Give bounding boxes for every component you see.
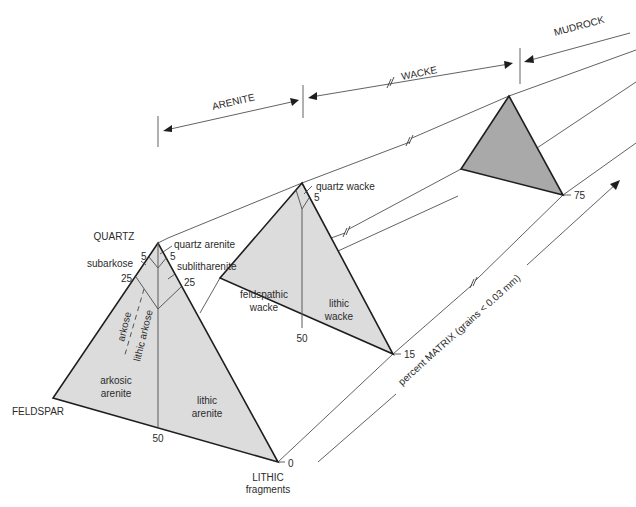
lithic-wacke-label-2: wacke xyxy=(324,311,354,322)
lithic-vertex-label-1: LITHIC xyxy=(252,472,284,483)
matrix-value-15: 15 xyxy=(404,349,416,360)
arenite-left-arrowhead xyxy=(163,125,172,132)
quartz-arenite-label: quartz arenite xyxy=(174,239,236,250)
sublitharenite-label: sublitharenite xyxy=(177,261,237,272)
arenite-tick-5-right: 5 xyxy=(170,251,176,262)
wacke-left-arrowhead xyxy=(308,92,317,100)
arenite-tick-50: 50 xyxy=(152,433,164,444)
arkosic-arenite-label-2: arenite xyxy=(101,388,132,399)
matrix-value-0: 0 xyxy=(288,458,294,469)
lithic-vertex-label-2: fragments xyxy=(246,484,290,495)
mudrock-range-label: MUDROCK xyxy=(553,14,606,38)
arkosic-arenite-label-1: arkosic xyxy=(100,375,132,386)
right-edge-connector xyxy=(200,278,220,313)
arenite-tick-25-right: 25 xyxy=(184,277,196,288)
quartz-vertex-label: QUARTZ xyxy=(94,231,135,242)
apex-tail xyxy=(158,238,168,243)
apex-line-4 xyxy=(509,50,636,96)
arenite-tick-25-left: 25 xyxy=(121,273,133,284)
wacke-tick-5: 5 xyxy=(314,192,320,203)
feldspar-vertex-label: FELDSPAR xyxy=(12,406,64,417)
matrix-axis-line-upper xyxy=(527,184,616,265)
arenite-right-arrowhead xyxy=(290,98,299,106)
feldspathic-wacke-label-2: wacke xyxy=(249,302,279,313)
quartz-wacke-label: quartz wacke xyxy=(316,181,375,192)
arenite-range-label: ARENITE xyxy=(211,91,256,112)
feldspathic-wacke-label-1: feldspathic xyxy=(240,289,288,300)
right-edge-line-3 xyxy=(537,82,636,148)
lithic-line-1 xyxy=(278,354,393,462)
subarkose-label: subarkose xyxy=(87,258,134,269)
lithic-line-2 xyxy=(393,285,472,354)
matrix-value-75: 75 xyxy=(574,190,586,201)
wacke-tick-50: 50 xyxy=(296,333,308,344)
lithic-arenite-label-2: arenite xyxy=(192,408,223,419)
lithic-wacke-label-1: lithic xyxy=(329,298,349,309)
lithic-line-3 xyxy=(476,195,563,280)
wacke-triangle xyxy=(220,183,393,354)
matrix-axis-label: percent MATRIX (grains < 0.03 mm) xyxy=(396,272,522,387)
wacke-right-arrowhead xyxy=(504,61,513,69)
mudrock-left-arrowhead xyxy=(524,55,534,63)
matrix-axis-line-lower xyxy=(318,394,396,462)
apex-line-2 xyxy=(302,142,410,183)
right-edge-line-2 xyxy=(338,196,458,251)
sandstone-classification-diagram: ARENITE WACKE MUDROCK 75 quartz wacke 5 … xyxy=(0,0,636,507)
mudrock-triangle xyxy=(461,96,563,195)
mudrock-arrow-line xyxy=(527,33,630,61)
arenite-tick-5-left: 5 xyxy=(141,251,147,262)
lithic-arenite-label-1: lithic xyxy=(197,395,217,406)
lithic-line-4 xyxy=(563,143,636,195)
range-arrows xyxy=(158,33,630,147)
